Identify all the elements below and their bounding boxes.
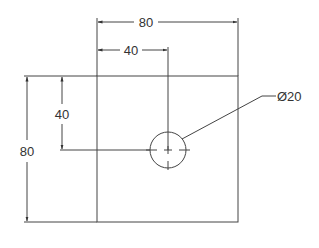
- technical-drawing: 80 40 80 40 Ø20: [0, 0, 319, 248]
- hole-leader-line: [182, 96, 276, 139]
- dim-text-overall-width: 80: [139, 15, 153, 30]
- dim-text-overall-height: 80: [20, 144, 34, 159]
- dim-text-hole-diameter: Ø20: [277, 89, 302, 104]
- dim-text-hole-y: 40: [55, 107, 69, 122]
- center-mark-icon: [146, 146, 190, 170]
- dim-text-hole-x: 40: [124, 43, 138, 58]
